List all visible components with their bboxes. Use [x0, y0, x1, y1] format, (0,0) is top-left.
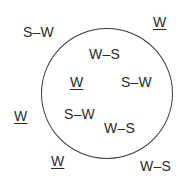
stress-pattern-diagram: S–W W W W W–S W–S W S–W S–W W–S [0, 0, 185, 187]
inside-label-upper-right: S–W [121, 75, 152, 89]
inside-label-lower-left: S–W [64, 107, 95, 121]
inside-label-top: W–S [89, 47, 120, 61]
inside-label-upper-left: W [70, 75, 83, 89]
outside-label-top-left: S–W [23, 25, 54, 39]
outside-label-bottom-right: W–S [140, 159, 171, 173]
outside-label-bottom-left: W [51, 154, 64, 168]
outside-label-left: W [14, 109, 27, 123]
inside-label-lower-right: W–S [104, 121, 135, 135]
outside-label-top-right: W [153, 15, 166, 29]
